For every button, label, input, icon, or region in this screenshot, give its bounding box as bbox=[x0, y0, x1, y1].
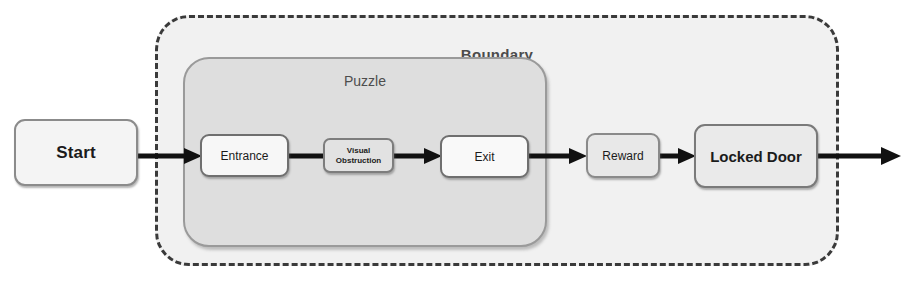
node-visual-obstruction-label-line2: Obstruction bbox=[336, 156, 381, 165]
edge-reward-to-locked-door bbox=[659, 147, 696, 165]
edge-exit-to-reward bbox=[529, 147, 587, 165]
node-exit[interactable]: Exit bbox=[440, 135, 529, 178]
node-reward[interactable]: Reward bbox=[586, 133, 660, 178]
node-exit-label: Exit bbox=[474, 150, 494, 164]
puzzle-label: Puzzle bbox=[185, 73, 545, 89]
node-reward-label: Reward bbox=[602, 149, 643, 163]
edge-obstruction-to-exit bbox=[393, 147, 442, 165]
edge-entrance-to-obstruction bbox=[288, 147, 325, 165]
edge-locked-door-to-outside bbox=[817, 147, 901, 165]
node-locked-door[interactable]: Locked Door bbox=[694, 124, 818, 188]
node-locked-door-label: Locked Door bbox=[710, 148, 802, 165]
node-visual-obstruction-label-line1: Visual bbox=[347, 146, 370, 155]
diagram-canvas: Boundary Puzzle bbox=[0, 0, 913, 285]
node-visual-obstruction[interactable]: Visual Obstruction bbox=[323, 138, 394, 173]
node-start-label: Start bbox=[56, 143, 96, 163]
node-entrance-label: Entrance bbox=[220, 149, 268, 163]
node-start[interactable]: Start bbox=[14, 119, 138, 186]
node-entrance[interactable]: Entrance bbox=[200, 134, 289, 177]
edge-start-to-entrance bbox=[136, 147, 202, 165]
